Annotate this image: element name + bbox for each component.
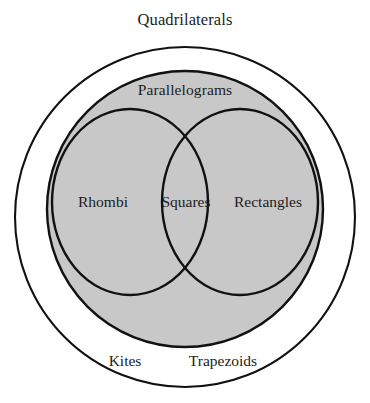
label-kites: Kites xyxy=(85,353,165,369)
label-rectangles: Rectangles xyxy=(213,194,323,210)
label-trapezoids: Trapezoids xyxy=(168,353,278,369)
label-quadrilaterals: Quadrilaterals xyxy=(0,12,370,29)
venn-diagram: Quadrilaterals Parallelograms Rhombi Squ… xyxy=(0,0,370,403)
label-parallelograms: Parallelograms xyxy=(0,82,370,98)
